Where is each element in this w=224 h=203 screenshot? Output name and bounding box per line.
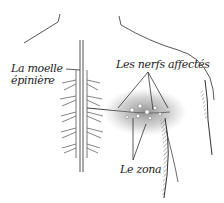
leader-spinal-cord bbox=[66, 69, 80, 70]
body-outline-drawing bbox=[0, 0, 224, 203]
neck-left-line bbox=[24, 14, 60, 43]
label-rash: Le zona bbox=[120, 164, 161, 176]
label-affected-nerves: Les nerfs affectés bbox=[116, 59, 210, 71]
spinal-cord-icon bbox=[60, 40, 103, 172]
medical-illustration: La moelle épinière Les nerfs affectés Le… bbox=[0, 0, 224, 203]
label-spinal-cord-line2: épinière bbox=[11, 75, 55, 87]
arm-hatch bbox=[200, 88, 207, 120]
